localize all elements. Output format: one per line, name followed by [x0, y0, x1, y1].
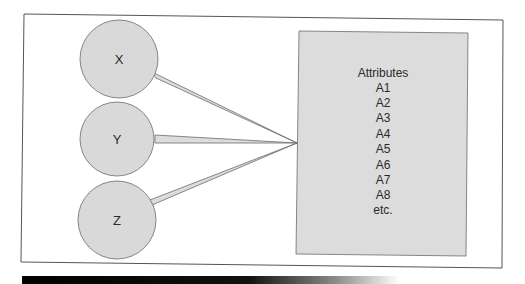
attribute-item: A7	[376, 173, 391, 187]
attribute-item: A4	[376, 127, 391, 141]
entity-z[interactable]: Z	[78, 181, 156, 259]
diagram-canvas: X Y Z Attributes A1 A2 A3 A4 A5 A6 A7 A8…	[0, 0, 525, 284]
attribute-item: A2	[376, 96, 391, 110]
attributes-title: Attributes	[358, 66, 409, 80]
attribute-item: A1	[376, 81, 391, 95]
attribute-item: A8	[376, 188, 391, 202]
attribute-item: A3	[376, 111, 391, 125]
attribute-item: A6	[376, 158, 391, 172]
attribute-item: A5	[376, 142, 391, 156]
attributes-box[interactable]: Attributes A1 A2 A3 A4 A5 A6 A7 A8 etc.	[296, 31, 468, 256]
entity-z-label: Z	[113, 213, 121, 228]
attribute-item: etc.	[373, 203, 392, 217]
entity-x[interactable]: X	[80, 20, 158, 98]
entity-y-label: Y	[113, 132, 122, 147]
entity-y[interactable]: Y	[80, 102, 154, 176]
page-edge-bar	[22, 276, 525, 284]
entity-x-label: X	[115, 52, 124, 67]
